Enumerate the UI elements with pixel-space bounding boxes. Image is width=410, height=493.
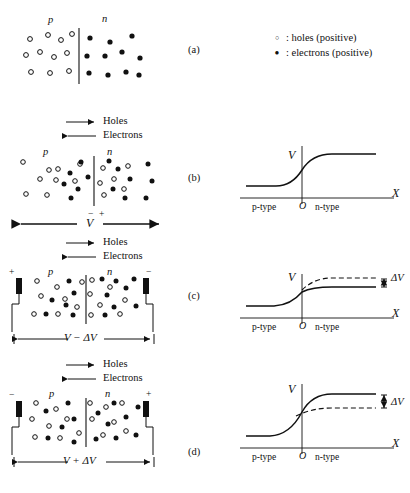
graph-c-origin-label: O: [299, 320, 306, 331]
graph-d-y-axis-label: V: [288, 382, 295, 397]
legend-row-electrons: ● : electrons (positive): [272, 45, 372, 60]
graph-b-left-region-label: p-type: [252, 202, 276, 212]
graph-b-x-axis-label: X: [392, 186, 399, 201]
panel-a-carrier-diagram: [20, 26, 170, 88]
graph-d-delta-label: ΔV: [391, 396, 404, 407]
panel-c-holes-label: Holes: [103, 236, 128, 247]
panel-c-electrons-label: Electrons: [103, 250, 143, 261]
panel-c-carrier-diagram: [22, 274, 154, 326]
panel-c-span-label: V − ΔV: [64, 331, 97, 343]
panel-b-holes: [21, 160, 131, 198]
panel-b-holes-label: Holes: [103, 115, 128, 126]
graph-c-y-axis-label: V: [288, 270, 295, 285]
graph-d-origin-label: O: [299, 450, 306, 461]
panel-a-electrons: [84, 33, 142, 77]
panel-d-electrons-label: Electrons: [103, 372, 143, 383]
panel-d-span-label: V + ΔV: [63, 454, 96, 466]
graph-c-solid-curve: [246, 287, 376, 306]
panel-c-holes: [32, 278, 128, 318]
panel-b-carrier-diagram: [18, 154, 178, 210]
panel-d-carrier-diagram: [22, 397, 154, 449]
graph-b-y-axis-label: V: [288, 148, 295, 163]
graph-b-right-region-label: n-type: [315, 202, 339, 212]
legend-holes-label: : holes (positive): [286, 30, 357, 45]
legend: ○ : holes (positive) ● : electrons (posi…: [272, 30, 372, 60]
panel-a-region-p-label: p: [48, 14, 53, 25]
panel-b: Holes Electrons p n: [0, 110, 410, 225]
graph-c-left-region-label: p-type: [252, 322, 276, 332]
graph-b-origin-label: O: [299, 200, 306, 211]
panel-c: Holes Electrons p n + −: [0, 228, 410, 346]
graph-c-right-region-label: n-type: [315, 322, 339, 332]
panel-b-flow-arrows: [66, 117, 100, 143]
legend-electrons-label: : electrons (positive): [286, 45, 372, 60]
graph-d-x-axis-label: X: [392, 436, 399, 451]
panel-c-flow-arrows: [66, 238, 100, 264]
graph-d: [236, 368, 406, 464]
graph-c-delta-label: ΔV: [391, 272, 404, 283]
panel-a-letter: (a): [188, 44, 200, 55]
panel-a-region-n-label: n: [102, 13, 107, 24]
panel-b-letter: (b): [188, 172, 200, 183]
panel-b-electrons-label: Electrons: [103, 129, 143, 140]
panel-d: Holes Electrons p n − +: [0, 350, 410, 475]
graph-d-solid-curve: [246, 394, 376, 436]
panel-d-flow-arrows: [66, 360, 100, 386]
hole-icon: ○: [272, 33, 282, 43]
figure-root: p n: [0, 0, 410, 493]
graph-c-x-axis-label: X: [392, 306, 399, 321]
legend-row-holes: ○ : holes (positive): [272, 30, 372, 45]
panel-c-letter: (c): [188, 290, 200, 301]
panel-d-letter: (d): [188, 446, 200, 457]
graph-d-dashed-reference: [296, 408, 376, 416]
panel-a: p n: [0, 0, 410, 110]
electron-icon: ●: [272, 47, 282, 59]
panel-d-holes-label: Holes: [103, 358, 128, 369]
panel-a-holes: [24, 32, 75, 76]
graph-d-right-region-label: n-type: [315, 452, 339, 462]
graph-d-left-region-label: p-type: [252, 452, 276, 462]
panel-d-holes: [30, 401, 129, 441]
panel-b-electrons: [62, 159, 155, 201]
